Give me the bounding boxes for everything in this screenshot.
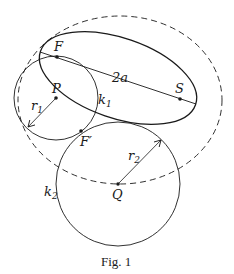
label-F-prime: F′ bbox=[79, 134, 92, 149]
label-r1: r1 bbox=[31, 98, 43, 115]
point-F bbox=[55, 55, 59, 59]
label-F: F bbox=[53, 39, 64, 54]
point-P bbox=[54, 96, 58, 100]
label-Q: Q bbox=[112, 187, 123, 202]
point-F-prime bbox=[79, 129, 83, 133]
label-S: S bbox=[175, 81, 184, 96]
point-Q bbox=[116, 182, 120, 186]
label-r2: r2 bbox=[128, 148, 140, 165]
label-major-axis: 2a bbox=[111, 70, 128, 85]
figure-caption: Fig. 1 bbox=[101, 254, 131, 269]
point-S bbox=[178, 97, 182, 101]
label-P: P bbox=[51, 81, 61, 96]
geometry-figure: F S P F′ Q 2a r1 r2 k1 k2 Fig. 1 bbox=[0, 0, 234, 274]
label-k1: k1 bbox=[98, 92, 112, 109]
